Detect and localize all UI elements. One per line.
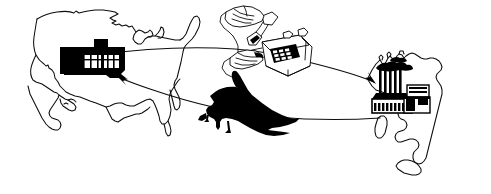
trade-flow-illustration	[0, 0, 491, 194]
factory-smokestack	[399, 68, 402, 95]
factory-smokestack	[394, 67, 397, 95]
building-rooftop-unit	[94, 39, 108, 48]
factory-smokestack	[384, 68, 387, 95]
factory-louvers	[374, 103, 408, 111]
illustration-canvas	[0, 0, 491, 194]
building-mullion	[83, 55, 85, 68]
building-mullion	[119, 55, 121, 68]
building-mullion	[97, 55, 99, 68]
factory-smokestack	[389, 67, 392, 95]
building-left-wing	[60, 48, 82, 74]
building-pillar	[101, 52, 104, 70]
building-mullion	[90, 55, 92, 68]
factory-annex-window	[418, 99, 428, 105]
factory-smokestack	[379, 69, 382, 95]
building-transom	[83, 59, 121, 60]
factory-annex-roofline	[404, 97, 430, 99]
building-mullion	[113, 55, 115, 68]
factory-annex-door	[406, 99, 415, 111]
building-mullion	[107, 55, 109, 68]
